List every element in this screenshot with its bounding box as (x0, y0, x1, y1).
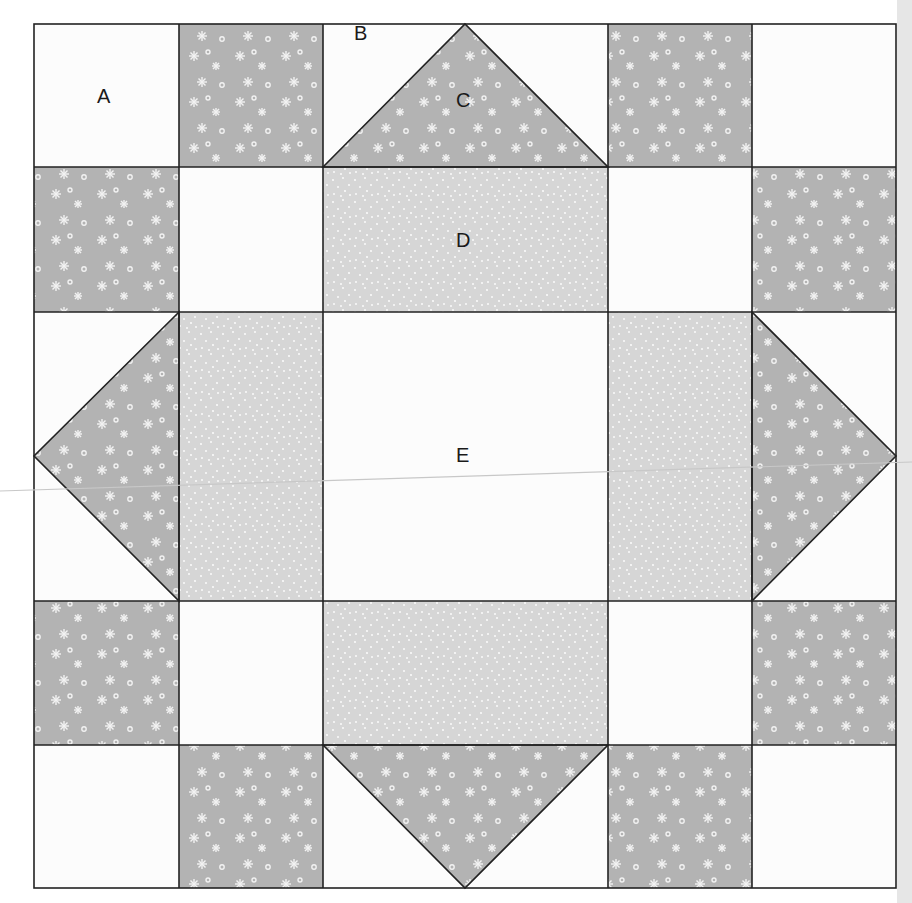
label-c: C (456, 89, 470, 111)
label-d: D (456, 229, 470, 251)
quilt-block-diagram: A B C D E (0, 0, 912, 903)
label-a: A (97, 85, 111, 107)
label-b: B (354, 22, 367, 44)
label-e: E (456, 444, 469, 466)
